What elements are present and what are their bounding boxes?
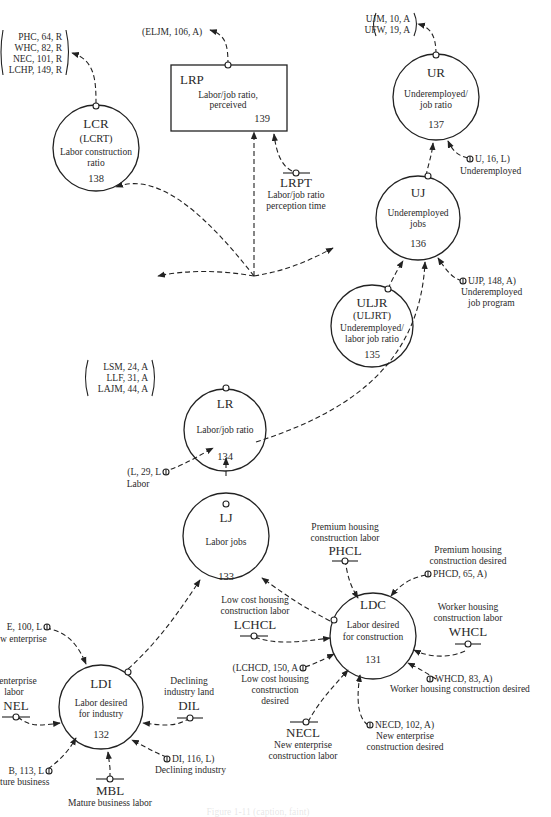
const-nel: enterprise labor NEL bbox=[0, 676, 37, 720]
svg-text:Declining industry: Declining industry bbox=[155, 765, 226, 775]
node-lcr-label1: Labor construction bbox=[60, 147, 132, 157]
svg-text:Labor/job ratio: Labor/job ratio bbox=[267, 190, 324, 200]
flow-diagram: LCR (LCRT) Labor construction ratio 138 … bbox=[0, 0, 551, 817]
ref-llf: LLF, 31, A bbox=[107, 373, 149, 383]
svg-text:U, 16, L): U, 16, L) bbox=[475, 154, 510, 165]
node-uj-number: 136 bbox=[410, 238, 426, 249]
svg-text:desired: desired bbox=[261, 696, 289, 706]
svg-text:construction labor: construction labor bbox=[269, 751, 339, 761]
svg-text:NEL: NEL bbox=[3, 698, 28, 713]
ref-lchcd: (LCHCD, 150, A Low cost housing construc… bbox=[233, 663, 309, 706]
svg-text:Worker housing construction de: Worker housing construction desired bbox=[390, 684, 530, 694]
ref-di: DI, 116, L) Declining industry bbox=[155, 754, 226, 775]
svg-text:New enterprise: New enterprise bbox=[274, 740, 332, 750]
node-ldi[interactable]: LDI Labor desired for industry 132 bbox=[59, 665, 143, 749]
node-lrp-number: 139 bbox=[254, 113, 270, 124]
node-ldc-code: LDC bbox=[360, 597, 386, 612]
node-uj[interactable]: UJ Underemployed jobs 136 bbox=[376, 173, 460, 260]
svg-text:DI, 116, L): DI, 116, L) bbox=[172, 754, 214, 765]
node-lcr-sub: (LCRT) bbox=[79, 133, 113, 145]
svg-text:PHCL: PHCL bbox=[328, 543, 361, 558]
svg-text:construction labor: construction labor bbox=[434, 613, 504, 623]
node-lrp-code: LRP bbox=[180, 72, 204, 87]
const-necl: NECL New enterprise construction labor bbox=[269, 719, 339, 761]
const-lchcl: Low cost housing construction labor LCHC… bbox=[221, 595, 291, 639]
svg-text:job program: job program bbox=[467, 298, 515, 308]
node-uljr-label1: Underemployed/ bbox=[340, 323, 404, 333]
const-dil: Declining industry land DIL bbox=[164, 676, 214, 721]
node-lrp-label1: Labor/job ratio, bbox=[198, 90, 258, 100]
ref-ujp: UJP, 148, A) Underemployed job program bbox=[460, 276, 522, 308]
node-lrp-label2: perceived bbox=[210, 100, 247, 110]
node-uljr-label2: labor job ratio bbox=[345, 334, 399, 344]
node-lj-code: LJ bbox=[220, 510, 233, 525]
svg-text:LRPT: LRPT bbox=[280, 175, 312, 190]
svg-text:Low cost housing: Low cost housing bbox=[241, 674, 309, 684]
svg-text:enterprise: enterprise bbox=[0, 676, 37, 686]
node-ldi-label2: for industry bbox=[79, 709, 124, 719]
node-uljr[interactable]: ULJR (ULJRT) Underemployed/ labor job ra… bbox=[331, 285, 413, 367]
const-lrpt: LRPT Labor/job ratio perception time bbox=[266, 170, 325, 211]
node-lcr-label2: ratio bbox=[87, 158, 105, 168]
node-ur-number: 137 bbox=[428, 119, 444, 130]
node-ur[interactable]: UR Underemployed/ job ratio 137 bbox=[393, 52, 479, 140]
node-uj-code: UJ bbox=[411, 185, 425, 200]
svg-text:Premium housing: Premium housing bbox=[311, 522, 379, 532]
svg-text:construction desired: construction desired bbox=[430, 556, 507, 566]
node-uj-label1: Underemployed bbox=[387, 208, 448, 218]
node-ldc-label1: Labor desired bbox=[347, 620, 400, 630]
svg-text:(L, 29, L: (L, 29, L bbox=[127, 467, 161, 478]
svg-text:industry land: industry land bbox=[164, 687, 214, 697]
const-mbl: MBL Mature business labor bbox=[68, 776, 153, 808]
svg-text:construction: construction bbox=[252, 685, 299, 695]
node-ldc[interactable]: LDC Labor desired for construction 131 bbox=[330, 593, 416, 679]
svg-text:Worker housing: Worker housing bbox=[438, 602, 499, 612]
ref-phcd: Premium housing construction desired PHC… bbox=[425, 545, 507, 580]
ref-lr-group: LSM, 24, A LLF, 31, A LAJM, 44, A bbox=[86, 360, 155, 396]
node-lrp[interactable]: LRP Labor/job ratio, perceived 139 bbox=[171, 62, 287, 131]
svg-text:LCHCL: LCHCL bbox=[234, 617, 277, 632]
ref-lsm: LSM, 24, A bbox=[103, 362, 148, 372]
ref-necd: NECD, 102, A) New enterprise constructio… bbox=[367, 720, 444, 752]
node-uj-label2: jobs bbox=[409, 219, 426, 229]
node-lcr[interactable]: LCR (LCRT) Labor construction ratio 138 bbox=[53, 103, 139, 191]
svg-text:New enterprise: New enterprise bbox=[376, 731, 434, 741]
ref-ujm: UJM, 10, A bbox=[366, 14, 410, 24]
ref-lchp: LCHP, 149, R bbox=[9, 65, 63, 75]
svg-text:Declining: Declining bbox=[170, 676, 208, 686]
svg-text:E, 100, L: E, 100, L bbox=[7, 622, 43, 632]
svg-text:NECD, 102, A): NECD, 102, A) bbox=[375, 720, 434, 731]
svg-text:w enterprise: w enterprise bbox=[0, 634, 47, 644]
svg-text:MBL: MBL bbox=[96, 783, 124, 798]
node-lr[interactable]: LR Labor/job ratio 134 bbox=[184, 385, 266, 471]
ref-mb: B, 113, L ture business bbox=[0, 766, 52, 787]
const-phcl: Premium housing construction labor PHCL bbox=[311, 522, 381, 564]
ref-lajm: LAJM, 44, A bbox=[98, 384, 148, 394]
svg-text:Low cost housing: Low cost housing bbox=[221, 595, 289, 605]
node-lj-number: 133 bbox=[218, 571, 234, 582]
ref-nec: NEC, 101, R bbox=[13, 54, 63, 64]
svg-text:construction labor: construction labor bbox=[221, 606, 291, 616]
svg-text:construction labor: construction labor bbox=[311, 533, 381, 543]
node-ur-label1: Underemployed/ bbox=[404, 89, 468, 99]
node-ldi-label1: Labor desired bbox=[75, 698, 128, 708]
ref-ur-group: UJM, 10, A UFW, 19, A bbox=[364, 13, 416, 36]
svg-text:Mature business labor: Mature business labor bbox=[68, 798, 153, 808]
svg-text:NECL: NECL bbox=[286, 725, 320, 740]
figure-caption: Figure 1-11 (caption, faint) bbox=[206, 807, 309, 817]
ref-phc: PHC, 64, R bbox=[18, 32, 62, 42]
svg-text:Labor: Labor bbox=[127, 479, 151, 489]
svg-text:perception time: perception time bbox=[266, 201, 325, 211]
node-lr-label1: Labor/job ratio bbox=[196, 425, 253, 435]
svg-text:WHCL: WHCL bbox=[449, 624, 487, 639]
ref-u: U, 16, L) Underemployed bbox=[460, 154, 521, 176]
node-ldc-label2: for construction bbox=[343, 632, 404, 642]
node-uljr-number: 135 bbox=[364, 349, 380, 360]
svg-text:Premium housing: Premium housing bbox=[434, 545, 502, 555]
ref-lcr-group: PHC, 64, R WHC, 82, R NEC, 101, R LCHP, … bbox=[1, 30, 69, 75]
node-lj-label1: Labor jobs bbox=[206, 537, 247, 547]
svg-text:PHCD, 65, A): PHCD, 65, A) bbox=[433, 569, 487, 580]
svg-text:B, 113, L: B, 113, L bbox=[8, 766, 44, 776]
ref-whcd: WHCD, 83, A) Worker housing construction… bbox=[390, 674, 530, 694]
node-lj[interactable]: LJ Labor jobs 133 bbox=[183, 493, 269, 582]
